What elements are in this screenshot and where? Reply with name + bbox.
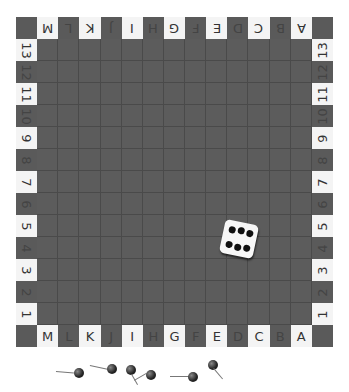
board-cell[interactable]: [291, 105, 312, 127]
board-cell[interactable]: [227, 149, 248, 171]
board-cell[interactable]: [248, 171, 269, 193]
board-cell[interactable]: [101, 259, 122, 281]
board-cell[interactable]: [164, 61, 185, 83]
board-cell[interactable]: [122, 61, 143, 83]
board-cell[interactable]: [270, 215, 291, 237]
board-cell[interactable]: [248, 61, 269, 83]
board-cell[interactable]: [37, 105, 58, 127]
board-cell[interactable]: [143, 127, 164, 149]
board-cell[interactable]: [227, 127, 248, 149]
board-cell[interactable]: [185, 105, 206, 127]
board-cell[interactable]: [164, 83, 185, 105]
board-cell[interactable]: [270, 105, 291, 127]
board-cell[interactable]: [79, 193, 100, 215]
board-cell[interactable]: [164, 149, 185, 171]
board-cell[interactable]: [164, 237, 185, 259]
board-cell[interactable]: [248, 259, 269, 281]
board-cell[interactable]: [143, 237, 164, 259]
board-cell[interactable]: [206, 83, 227, 105]
board-cell[interactable]: [291, 237, 312, 259]
board-cell[interactable]: [227, 259, 248, 281]
board-cell[interactable]: [58, 259, 79, 281]
board-cell[interactable]: [37, 303, 58, 325]
board-cell[interactable]: [79, 259, 100, 281]
board-cell[interactable]: [227, 193, 248, 215]
board-cell[interactable]: [270, 259, 291, 281]
board-cell[interactable]: [101, 193, 122, 215]
board-cell[interactable]: [122, 193, 143, 215]
board-cell[interactable]: [291, 39, 312, 61]
board-cell[interactable]: [37, 259, 58, 281]
board-cell[interactable]: [185, 171, 206, 193]
board-cell[interactable]: [37, 215, 58, 237]
board-cell[interactable]: [227, 281, 248, 303]
board-cell[interactable]: [122, 171, 143, 193]
board-cell[interactable]: [291, 281, 312, 303]
board-cell[interactable]: [79, 215, 100, 237]
board-cell[interactable]: [143, 303, 164, 325]
board-cell[interactable]: [185, 193, 206, 215]
board-cell[interactable]: [58, 83, 79, 105]
board-cell[interactable]: [101, 281, 122, 303]
board-cell[interactable]: [270, 303, 291, 325]
board-cell[interactable]: [37, 281, 58, 303]
board-cell[interactable]: [79, 281, 100, 303]
board-cell[interactable]: [227, 39, 248, 61]
board-cell[interactable]: [101, 237, 122, 259]
board-cell[interactable]: [37, 39, 58, 61]
board-cell[interactable]: [185, 149, 206, 171]
board-cell[interactable]: [122, 149, 143, 171]
board-cell[interactable]: [143, 39, 164, 61]
board-cell[interactable]: [143, 193, 164, 215]
board-cell[interactable]: [185, 39, 206, 61]
board-cell[interactable]: [248, 39, 269, 61]
board-cell[interactable]: [79, 127, 100, 149]
board-cell[interactable]: [143, 61, 164, 83]
board-cell[interactable]: [291, 171, 312, 193]
board-cell[interactable]: [79, 83, 100, 105]
board-cell[interactable]: [37, 171, 58, 193]
board-cell[interactable]: [227, 171, 248, 193]
board-cell[interactable]: [164, 303, 185, 325]
board-cell[interactable]: [248, 105, 269, 127]
board-cell[interactable]: [101, 171, 122, 193]
board-cell[interactable]: [270, 149, 291, 171]
board-cell[interactable]: [122, 83, 143, 105]
die[interactable]: [219, 219, 259, 259]
board-cell[interactable]: [79, 171, 100, 193]
board-cell[interactable]: [58, 281, 79, 303]
board-cell[interactable]: [185, 83, 206, 105]
board-cell[interactable]: [185, 127, 206, 149]
board-cell[interactable]: [58, 127, 79, 149]
board-cell[interactable]: [291, 83, 312, 105]
board-cell[interactable]: [291, 127, 312, 149]
board-cell[interactable]: [248, 281, 269, 303]
board-cell[interactable]: [122, 259, 143, 281]
board-cell[interactable]: [185, 215, 206, 237]
board-cell[interactable]: [143, 83, 164, 105]
board-cell[interactable]: [270, 193, 291, 215]
board-cell[interactable]: [185, 303, 206, 325]
board-cell[interactable]: [79, 237, 100, 259]
board-cell[interactable]: [164, 193, 185, 215]
board-cell[interactable]: [101, 149, 122, 171]
board-cell[interactable]: [291, 193, 312, 215]
board-cell[interactable]: [291, 303, 312, 325]
board-cell[interactable]: [206, 281, 227, 303]
board-cell[interactable]: [270, 39, 291, 61]
board-cell[interactable]: [101, 215, 122, 237]
board-cell[interactable]: [122, 237, 143, 259]
board-cell[interactable]: [37, 127, 58, 149]
board-cell[interactable]: [206, 259, 227, 281]
board-cell[interactable]: [101, 61, 122, 83]
board-cell[interactable]: [164, 171, 185, 193]
board-cell[interactable]: [122, 39, 143, 61]
board-cell[interactable]: [270, 127, 291, 149]
board-cell[interactable]: [143, 149, 164, 171]
board-cell[interactable]: [143, 281, 164, 303]
board-cell[interactable]: [206, 149, 227, 171]
board-cell[interactable]: [122, 281, 143, 303]
board-cell[interactable]: [79, 61, 100, 83]
board-cell[interactable]: [206, 303, 227, 325]
board-cell[interactable]: [164, 215, 185, 237]
